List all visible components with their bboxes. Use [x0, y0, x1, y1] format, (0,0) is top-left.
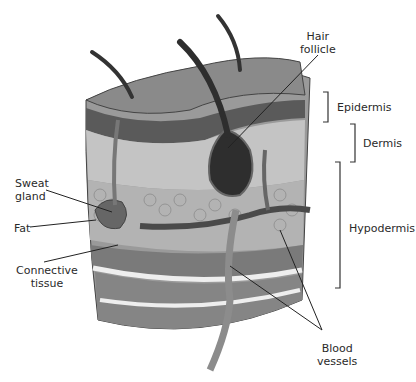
label-line: Connective [16, 264, 78, 277]
hair-follicle-label: Hair follicle [300, 30, 336, 56]
label-line: gland [15, 190, 49, 203]
epidermis-label: Epidermis [337, 101, 392, 114]
label-line: follicle [300, 43, 336, 56]
layer-brackets [323, 92, 355, 288]
skin-diagram [0, 0, 416, 382]
sweat-gland-label: Sweat gland [15, 177, 49, 203]
hypodermis-label: Hypodermis [349, 222, 415, 235]
label-line: tissue [16, 277, 78, 290]
label-line: Blood [317, 342, 357, 355]
connective-tissue-label: Connective tissue [16, 264, 78, 290]
blood-vessels-label: Blood vessels [317, 342, 357, 368]
fat-label: Fat [14, 222, 30, 235]
label-line: Hair [300, 30, 336, 43]
dermis-label: Dermis [363, 137, 402, 150]
label-line: Sweat [15, 177, 49, 190]
label-line: vessels [317, 355, 357, 368]
